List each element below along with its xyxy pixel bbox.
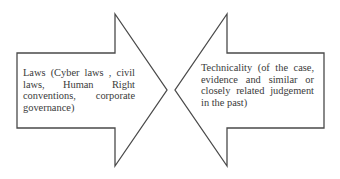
laws-arrow-label: Laws (Cyber laws , civil laws, Human Rig… [23,67,135,113]
technicality-arrow-label: Technicality (of the case, evidence and … [201,62,314,108]
